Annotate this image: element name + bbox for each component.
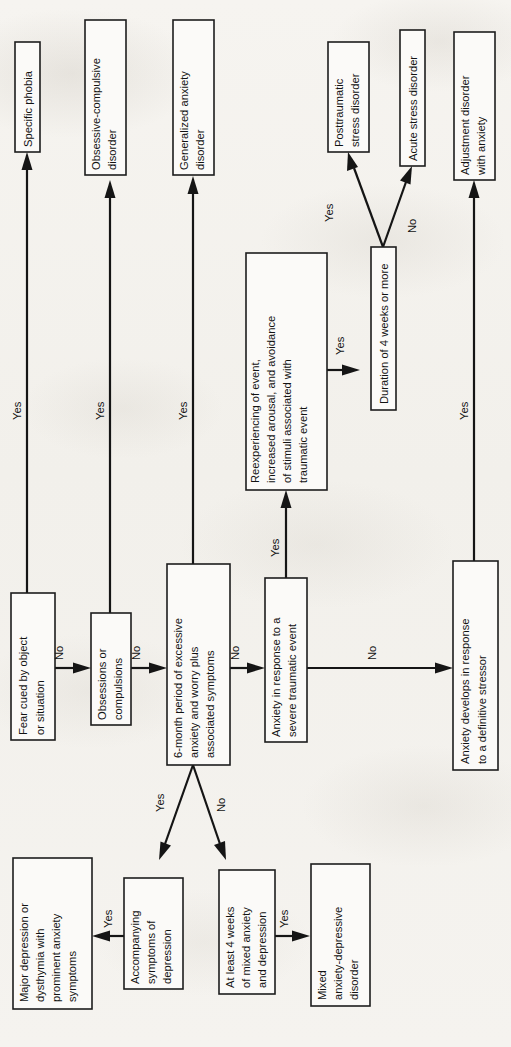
node-anxiety-stressor-line-1: to a definitive stressor — [476, 655, 488, 764]
node-duration-4-weeks[interactable]: Duration of 4 weeks or more — [371, 247, 396, 410]
node-gad[interactable]: Generalized anxiety disorder — [173, 20, 214, 175]
node-six-month-line-1: anxiety and worry plus — [188, 646, 200, 758]
figure-canvas: Specific phobia Obsessive-compulsive dis… — [0, 0, 511, 1047]
node-reexperiencing[interactable]: Reexperiencing of event, increased arous… — [246, 253, 327, 490]
node-anxiety-trauma-line-0: Anxiety in response to a — [270, 617, 282, 737]
edge-sixmonth-to-trauma — [230, 663, 265, 674]
node-reexperiencing-line-0: Reexperiencing of event, — [249, 359, 261, 483]
node-accompanying-line-0: Accompanying — [129, 911, 141, 984]
node-gad-line-1: disorder — [194, 129, 206, 170]
node-major-depression-line-1: dysthymia with — [34, 929, 46, 1002]
edge-label-stressor-yes: Yes — [458, 401, 470, 420]
edge-label-fear-yes: Yes — [11, 401, 23, 420]
node-major-depression[interactable]: Major depression or dysthymia with promi… — [13, 858, 92, 1009]
edge-obsessions-to-ocd — [105, 180, 116, 613]
node-atleast-line-0: At least 4 weeks — [224, 906, 236, 988]
edge-duration-to-acute-stress — [383, 166, 412, 247]
node-obsessions-line-0: Obsessions or — [96, 648, 108, 720]
node-mixed-line-1: anxiety-depressive — [332, 907, 344, 1000]
node-obsessions-line-1: compulsions — [112, 657, 124, 720]
node-mixed-anxiety-depressive[interactable]: Mixed anxiety-depressive disorder — [311, 864, 370, 1006]
edge-atleast4weeks-to-mixed — [275, 931, 310, 942]
edge-sixmonth-to-gad — [188, 176, 199, 564]
node-acute-stress-disorder[interactable]: Acute stress disorder — [400, 30, 425, 166]
node-six-month-line-2: associated symptoms — [204, 650, 216, 758]
node-major-depression-line-2: prominent anxiety — [50, 913, 62, 1002]
flowchart-svg: Specific phobia Obsessive-compulsive dis… — [0, 0, 511, 1047]
edge-label-atleast-yes: Yes — [278, 909, 290, 928]
node-fear-cued[interactable]: Fear cued by object or situation — [11, 593, 55, 740]
node-specific-phobia-line-0: Specific phobia — [22, 70, 34, 147]
node-six-month-period[interactable]: 6-month period of excessive anxiety and … — [167, 564, 230, 765]
node-duration-line-0: Duration of 4 weeks or more — [378, 263, 390, 404]
node-ocd-line-1: disorder — [106, 129, 118, 170]
edge-stressor-to-adjustment — [469, 180, 480, 561]
node-reexperiencing-line-3: traumatic event — [297, 406, 309, 483]
edge-duration-to-ptsd — [347, 152, 383, 247]
edge-fear-to-obsessions — [55, 663, 91, 674]
edge-label-trauma-yes: Yes — [269, 538, 281, 557]
edge-label-six-dep-yes: Yes — [154, 793, 166, 812]
node-acute-stress-line-0: Acute stress disorder — [407, 56, 419, 161]
node-ptsd-line-0: Posttraumatic — [333, 78, 345, 147]
node-accompanying-line-2: depression — [161, 929, 173, 984]
edge-label-fear-no: No — [53, 646, 65, 660]
node-major-depression-line-0: Major depression or — [18, 903, 30, 1002]
edge-trauma-to-stressor — [307, 663, 453, 674]
node-obsessions[interactable]: Obsessions or compulsions — [91, 613, 131, 725]
node-specific-phobia[interactable]: Specific phobia — [15, 42, 40, 152]
node-six-month-line-0: 6-month period of excessive — [172, 618, 184, 758]
edge-label-accdep-yes: Yes — [102, 909, 114, 928]
node-mixed-line-2: disorder — [348, 959, 360, 1000]
edge-label-six-no: No — [229, 646, 241, 660]
node-reexperiencing-line-2: of stimuli associated with — [281, 359, 293, 483]
node-major-depression-line-3: symptoms — [66, 951, 78, 1002]
node-atleast-line-2: and depression — [256, 911, 268, 988]
edge-fear-to-specific-phobia — [22, 152, 33, 593]
edge-trauma-to-reexperiencing — [281, 490, 292, 578]
node-anxiety-traumatic-event[interactable]: Anxiety in response to a severe traumati… — [265, 578, 307, 742]
node-ocd-line-0: Obsessive-compulsive — [90, 58, 102, 170]
node-anxiety-stressor[interactable]: Anxiety develops in response to a defini… — [453, 561, 498, 770]
node-adjustment-line-0: Adjustment disorder — [459, 75, 471, 175]
node-anxiety-stressor-line-0: Anxiety develops in response — [459, 618, 471, 764]
edge-obsessions-to-sixmonth — [131, 663, 167, 674]
node-adjustment-disorder[interactable]: Adjustment disorder with anxiety — [454, 32, 495, 180]
edge-label-trauma-no: No — [366, 646, 378, 660]
edge-label-obs-no: No — [130, 646, 142, 660]
node-accompanying-depression[interactable]: Accompanying symptoms of depression — [124, 878, 183, 989]
node-accompanying-line-1: symptoms of — [145, 920, 157, 984]
node-anxiety-trauma-line-1: severe traumatic event — [286, 623, 298, 737]
edge-label-dur-no: No — [406, 219, 418, 233]
edge-label-reexp-yes: Yes — [334, 336, 346, 355]
node-reexperiencing-line-1: increased arousal, and avoidance — [265, 316, 277, 483]
edge-reexperiencing-to-duration — [327, 365, 360, 376]
node-at-least-4-weeks[interactable]: At least 4 weeks of mixed anxiety and de… — [219, 870, 275, 994]
edge-label-six-dep-no: No — [215, 798, 227, 812]
node-fear-cued-line-1: or situation — [34, 680, 46, 735]
node-ptsd[interactable]: Posttraumatic stress disorder — [328, 42, 369, 152]
node-adjustment-line-1: with anxiety — [475, 116, 487, 176]
edge-accompanying-to-major-depression — [92, 931, 124, 942]
edge-label-dur-yes: Yes — [323, 203, 335, 222]
edge-label-six-yes: Yes — [177, 401, 189, 420]
node-atleast-line-1: of mixed anxiety — [240, 907, 252, 988]
node-fear-cued-line-0: Fear cued by object — [17, 636, 29, 735]
node-mixed-line-0: Mixed — [316, 970, 328, 1000]
node-ptsd-line-1: stress disorder — [349, 73, 361, 147]
node-gad-line-0: Generalized anxiety — [178, 71, 190, 170]
node-ocd[interactable]: Obsessive-compulsive disorder — [85, 20, 126, 175]
edge-label-obs-yes: Yes — [94, 401, 106, 420]
